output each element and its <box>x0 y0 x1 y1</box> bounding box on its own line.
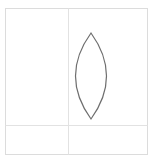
diagram-svg <box>0 0 154 166</box>
diagram-canvas <box>0 0 154 166</box>
frame-border <box>6 9 148 155</box>
lens-shape <box>76 33 107 119</box>
